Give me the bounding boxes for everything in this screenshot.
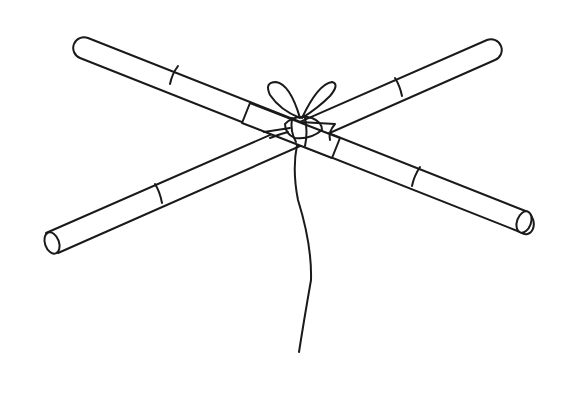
- illustration-canvas: [0, 0, 563, 393]
- stick-b: [42, 39, 502, 255]
- hanging-string: [295, 145, 311, 352]
- crossed-sticks-drawing: [0, 0, 563, 393]
